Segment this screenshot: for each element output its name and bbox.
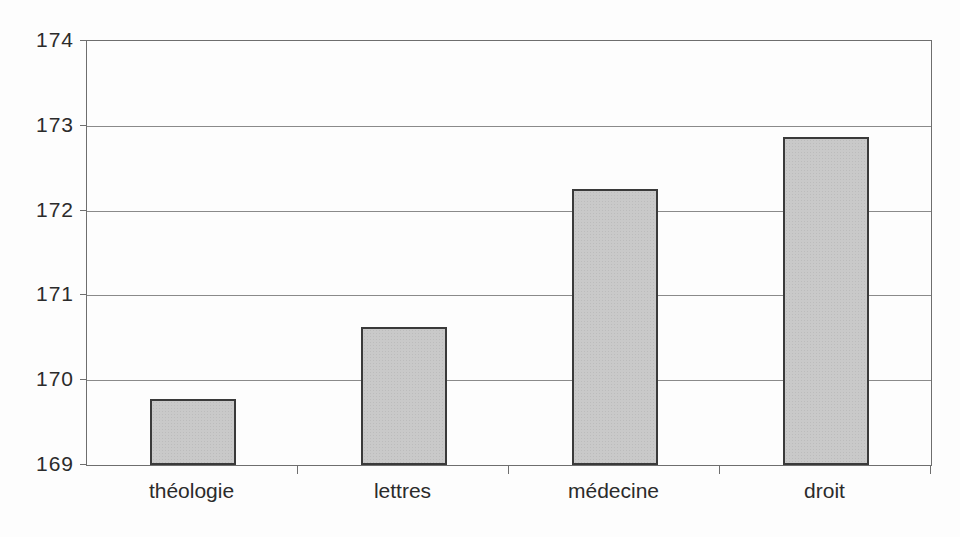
- x-tick-mark: [719, 465, 720, 474]
- x-tick-label: lettres: [297, 478, 508, 504]
- x-tick-label: médecine: [508, 478, 719, 504]
- y-tick-mark: [80, 379, 87, 380]
- bar-droit: [783, 137, 869, 465]
- y-tick-mark: [80, 210, 87, 211]
- bar-chart: 169170171172173174théologielettresmédeci…: [0, 0, 960, 537]
- y-tick-label: 174: [10, 28, 74, 52]
- y-tick-mark: [80, 464, 87, 465]
- bar-lettres: [361, 327, 447, 465]
- x-tick-mark: [930, 465, 931, 474]
- x-tick-label: droit: [719, 478, 930, 504]
- y-tick-mark: [80, 40, 87, 41]
- bar-théologie: [150, 399, 236, 465]
- y-tick-label: 172: [10, 198, 74, 222]
- gridline-173: [87, 126, 931, 127]
- x-tick-mark: [297, 465, 298, 474]
- plot-area: [86, 40, 932, 466]
- x-tick-mark: [508, 465, 509, 474]
- y-tick-label: 173: [10, 113, 74, 137]
- y-tick-mark: [80, 125, 87, 126]
- y-tick-label: 171: [10, 282, 74, 306]
- y-tick-label: 169: [10, 452, 74, 476]
- y-tick-label: 170: [10, 367, 74, 391]
- x-tick-label: théologie: [86, 478, 297, 504]
- y-tick-mark: [80, 294, 87, 295]
- bar-médecine: [572, 189, 658, 465]
